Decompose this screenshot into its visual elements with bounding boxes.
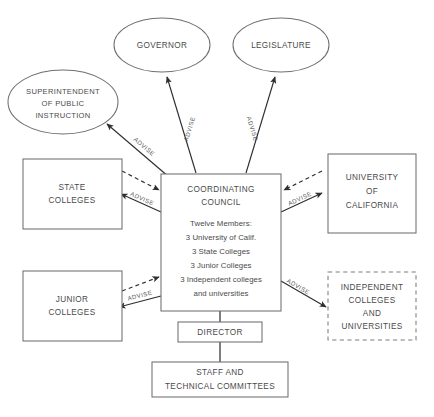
node-governor-label: GOVERNOR	[137, 41, 188, 50]
edge-state-colleges-to-council	[122, 171, 159, 190]
node-independent-colleges-line1: INDEPENDENT	[341, 283, 404, 292]
node-governor[interactable]: GOVERNOR	[114, 18, 210, 72]
organization-chart-svg: ADVISE ADVISE ADVISE ADVISE ADVISE ADVIS…	[0, 0, 434, 417]
edge-junior-colleges-to-council	[122, 277, 159, 291]
node-junior-colleges-line1: JUNIOR	[56, 295, 89, 304]
edge-label-council-to-legislature: ADVISE	[246, 116, 260, 142]
node-coordinating-council-title1: COORDINATING	[187, 185, 254, 194]
node-university-of-california[interactable]: UNIVERSITY OF CALIFORNIA	[328, 154, 416, 233]
node-junior-colleges-line2: COLLEGES	[49, 308, 96, 317]
node-independent-colleges-line3: AND	[363, 309, 381, 318]
node-state-colleges[interactable]: STATE COLLEGES	[23, 159, 122, 229]
node-staff-line1: STAFF AND	[196, 368, 244, 377]
edge-council-to-state-colleges: ADVISE	[121, 190, 161, 212]
edge-label-council-to-superintendent: ADVISE	[133, 135, 157, 157]
edge-label-council-to-governor: ADVISE	[182, 116, 196, 142]
node-superintendent-line3: INSTRUCTION	[35, 111, 90, 120]
node-legislature-label: LEGISLATURE	[251, 41, 311, 50]
node-junior-colleges[interactable]: JUNIOR COLLEGES	[23, 271, 122, 341]
node-superintendent-line2: OF PUBLIC	[42, 99, 85, 108]
node-director[interactable]: DIRECTOR	[178, 322, 262, 342]
node-university-of-california-line2: OF	[366, 187, 378, 196]
node-staff[interactable]: STAFF AND TECHNICAL COMMITTEES	[152, 362, 288, 397]
node-coordinating-council-body6: and universities	[194, 289, 249, 298]
node-staff-line2: TECHNICAL COMMITTEES	[165, 382, 275, 391]
edge-council-to-independent-colleges: ADVISE	[281, 277, 326, 307]
node-coordinating-council-title2: COUNCIL	[201, 198, 240, 207]
node-coordinating-council-body1: Twelve Members:	[190, 219, 252, 228]
diagram-canvas: ADVISE ADVISE ADVISE ADVISE ADVISE ADVIS…	[0, 0, 434, 417]
node-independent-colleges-line2: COLLEGES	[349, 296, 396, 305]
node-university-of-california-line1: UNIVERSITY	[346, 173, 399, 182]
node-director-label: DIRECTOR	[197, 328, 242, 337]
node-coordinating-council-body3: 3 State Colleges	[192, 247, 250, 256]
edge-label-council-to-university-of-california: ADVISE	[287, 190, 313, 207]
node-coordinating-council[interactable]: COORDINATING COUNCIL Twelve Members: 3 U…	[161, 174, 281, 311]
edge-council-to-junior-colleges: ADVISE	[119, 289, 161, 307]
node-superintendent-line1: SUPERINTENDENT	[26, 87, 100, 96]
node-independent-colleges-line4: UNIVERSITIES	[341, 322, 402, 331]
node-coordinating-council-body5: 3 Independent colleges	[180, 275, 262, 284]
node-coordinating-council-body2: 3 University of Calif.	[186, 233, 256, 242]
edge-label-council-to-junior-colleges: ADVISE	[127, 289, 153, 302]
edge-university-of-california-to-council	[284, 171, 322, 190]
edge-council-to-governor: ADVISE	[167, 77, 196, 173]
edge-council-to-university-of-california: ADVISE	[281, 190, 322, 212]
edge-council-to-legislature: ADVISE	[246, 77, 275, 173]
node-university-of-california-line3: CALIFORNIA	[346, 201, 399, 210]
node-independent-colleges[interactable]: INDEPENDENT COLLEGES AND UNIVERSITIES	[328, 272, 416, 340]
node-state-colleges-line2: COLLEGES	[49, 196, 96, 205]
node-legislature[interactable]: LEGISLATURE	[233, 18, 329, 72]
figure-caption	[0, 404, 434, 417]
node-coordinating-council-body4: 3 Junior Colleges	[190, 261, 251, 270]
node-state-colleges-line1: STATE	[59, 183, 86, 192]
node-superintendent[interactable]: SUPERINTENDENT OF PUBLIC INSTRUCTION	[8, 70, 118, 134]
